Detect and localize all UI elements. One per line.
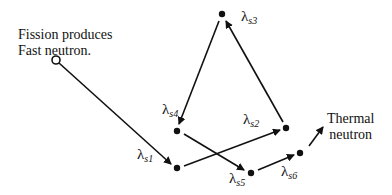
node-s3 bbox=[219, 11, 225, 17]
lambda-s3-label: λs3 bbox=[241, 8, 257, 29]
lambda-s5-label: λs5 bbox=[229, 170, 245, 191]
edge-s1-s2 bbox=[184, 130, 280, 166]
end-label: Thermal neutron bbox=[327, 111, 374, 143]
lambda-s1-label: λs1 bbox=[137, 146, 153, 167]
node-s6 bbox=[297, 150, 303, 156]
end-label-line2: neutron bbox=[327, 127, 374, 143]
start-label-line1: Fission produces bbox=[18, 27, 113, 43]
edge-start-s1 bbox=[59, 63, 171, 164]
node-s1 bbox=[174, 165, 180, 171]
end-label-line1: Thermal bbox=[327, 111, 374, 127]
edge-s3-s4 bbox=[179, 21, 219, 124]
edge-s2-s3 bbox=[226, 21, 283, 122]
start-label: Fission produces Fast neutron. bbox=[18, 27, 113, 59]
node-s2 bbox=[283, 125, 289, 131]
lambda-s6-label: λs6 bbox=[281, 163, 297, 184]
lambda-s2-label: λs2 bbox=[243, 111, 259, 132]
edge-s6-end bbox=[309, 127, 323, 146]
edge-s4-s5 bbox=[184, 134, 244, 170]
node-s4 bbox=[174, 128, 180, 134]
node-s5 bbox=[248, 170, 254, 176]
lambda-s4-label: λs4 bbox=[162, 101, 178, 122]
start-label-line2: Fast neutron. bbox=[18, 43, 113, 59]
